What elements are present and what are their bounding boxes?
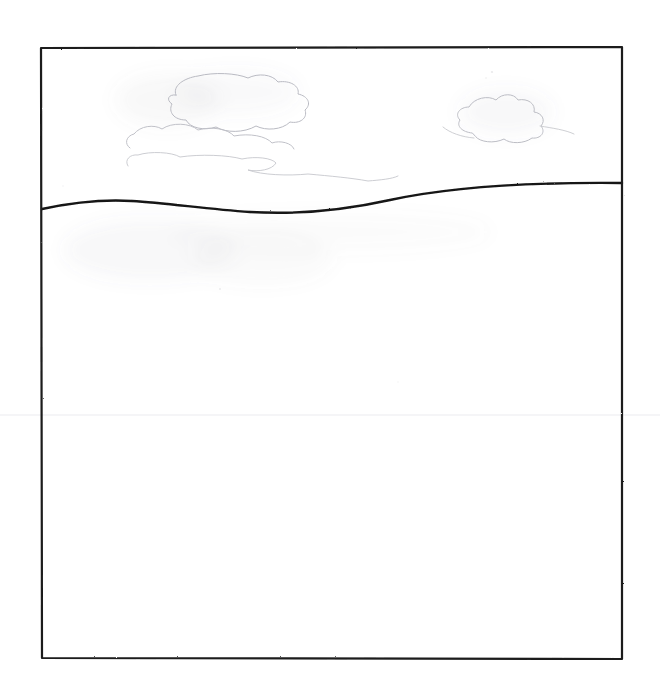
paper-speckle-4 xyxy=(62,185,64,187)
smudge-sky-right xyxy=(460,90,552,134)
paper-speckle-1 xyxy=(485,77,487,79)
paper-speckle-3 xyxy=(397,381,399,383)
paper-background xyxy=(0,0,660,696)
smudge-ground-wide xyxy=(170,214,490,250)
paper-speckle-0 xyxy=(491,71,493,73)
pencil-sketch-drawing xyxy=(0,0,660,696)
paper-speckle-2 xyxy=(219,288,221,290)
sketch-canvas: Horizon with Clouds Hand-drawn rectangul… xyxy=(0,0,660,696)
